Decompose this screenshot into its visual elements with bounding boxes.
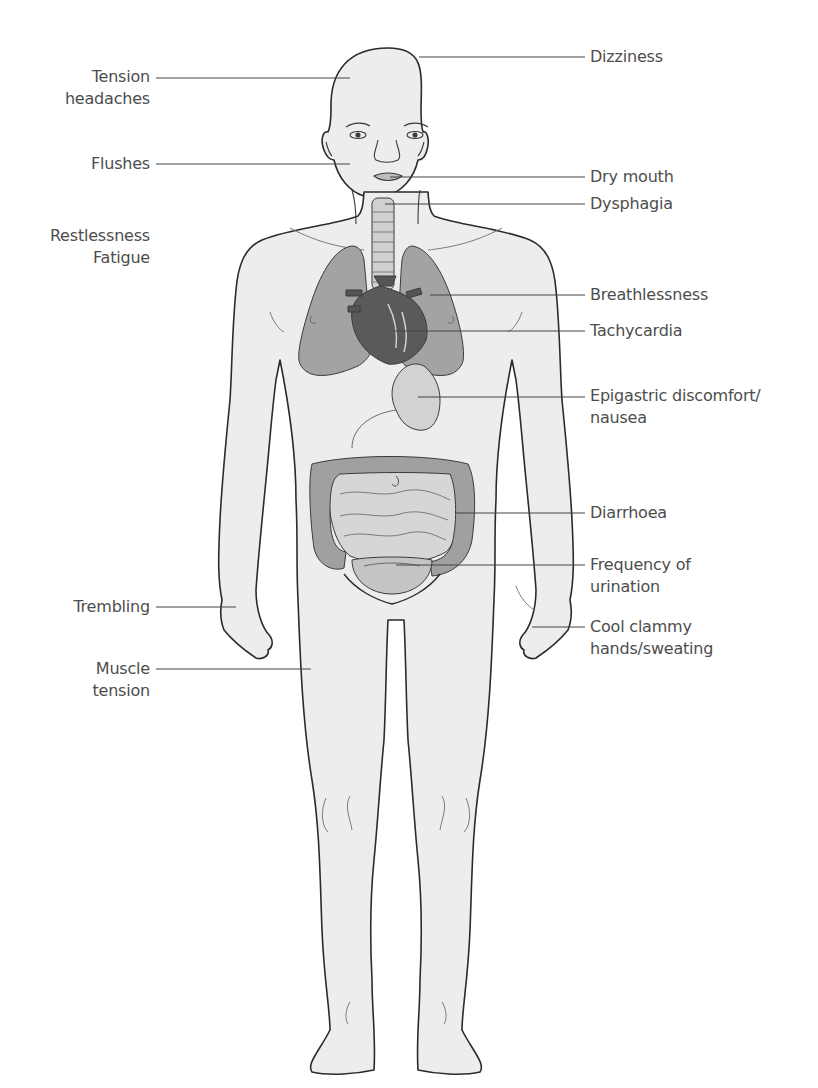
label-tachycardia: Tachycardia bbox=[590, 320, 682, 342]
symptom-body-diagram: Tension headaches Flushes Restlessness F… bbox=[0, 0, 818, 1088]
label-dysphagia: Dysphagia bbox=[590, 193, 673, 215]
label-frequency-of-urination: Frequency of urination bbox=[590, 554, 691, 598]
label-breathlessness: Breathlessness bbox=[590, 284, 708, 306]
label-tension-headaches: Tension headaches bbox=[65, 66, 150, 110]
label-muscle-tension: Muscle tension bbox=[92, 658, 150, 702]
label-cool-clammy-hands: Cool clammy hands/sweating bbox=[590, 616, 713, 660]
label-diarrhoea: Diarrhoea bbox=[590, 502, 667, 524]
label-dry-mouth: Dry mouth bbox=[590, 166, 674, 188]
head bbox=[322, 48, 428, 196]
label-epigastric-discomfort: Epigastric discomfort/ nausea bbox=[590, 385, 761, 429]
label-flushes: Flushes bbox=[91, 153, 150, 175]
label-trembling: Trembling bbox=[73, 596, 150, 618]
label-restlessness-fatigue: Restlessness Fatigue bbox=[50, 225, 150, 269]
label-dizziness: Dizziness bbox=[590, 46, 663, 68]
